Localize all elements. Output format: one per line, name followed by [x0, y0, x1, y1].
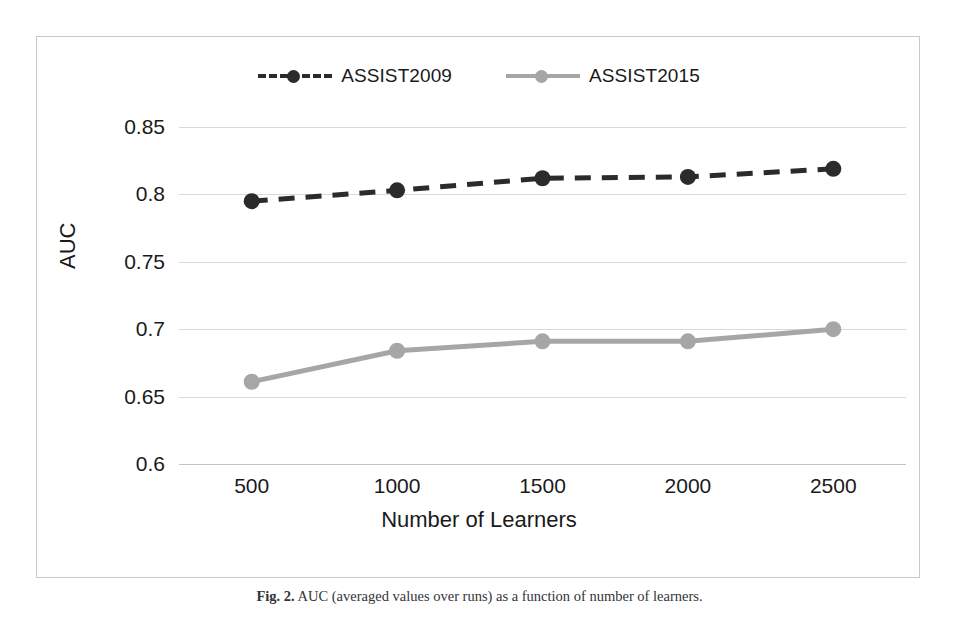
data-point-marker: [535, 170, 551, 186]
chart-legend: ASSIST2009 ASSIST2015: [37, 65, 921, 87]
series-plot: [179, 127, 906, 464]
x-axis-tick-label: 1000: [374, 474, 421, 498]
figure-caption: Fig. 2. AUC (averaged values over runs) …: [0, 588, 959, 605]
legend-item-assist2015: ASSIST2015: [506, 65, 700, 87]
x-axis-tick-label: 2500: [810, 474, 857, 498]
y-axis-title: AUC: [55, 223, 81, 269]
data-point-marker: [389, 343, 405, 359]
x-axis-tick-label: 500: [234, 474, 269, 498]
x-axis-tick-label: 1500: [519, 474, 566, 498]
data-point-marker: [825, 321, 841, 337]
legend-swatch-solid-line-icon: [506, 68, 580, 84]
legend-label-assist2009: ASSIST2009: [341, 65, 452, 87]
data-point-marker: [244, 193, 260, 209]
y-axis-tick-label: 0.85: [124, 115, 165, 139]
figure-caption-label: Fig. 2.: [256, 588, 294, 604]
y-axis-tick-label: 0.65: [124, 385, 165, 409]
data-point-marker: [825, 161, 841, 177]
legend-label-assist2015: ASSIST2015: [589, 65, 700, 87]
figure-frame: ASSIST2009 ASSIST2015 0.850.80.750.70.65…: [36, 36, 920, 578]
y-axis-tick-label: 0.8: [136, 182, 165, 206]
y-axis-tick-label: 0.6: [136, 452, 165, 476]
data-point-marker: [680, 169, 696, 185]
y-axis-tick-label: 0.7: [136, 317, 165, 341]
data-point-marker: [389, 182, 405, 198]
data-point-marker: [680, 333, 696, 349]
x-axis-tick-label: 2000: [665, 474, 712, 498]
x-axis-title: Number of Learners: [37, 507, 921, 533]
figure-caption-text: AUC (averaged values over runs) as a fun…: [298, 588, 703, 604]
data-point-marker: [535, 333, 551, 349]
y-axis-tick-label: 0.75: [124, 250, 165, 274]
plot-area: 0.850.80.750.70.650.6 500100015002000250…: [179, 127, 906, 464]
legend-swatch-dashed-line-icon: [258, 68, 332, 84]
legend-item-assist2009: ASSIST2009: [258, 65, 452, 87]
gridline: [179, 464, 906, 465]
data-point-marker: [244, 374, 260, 390]
